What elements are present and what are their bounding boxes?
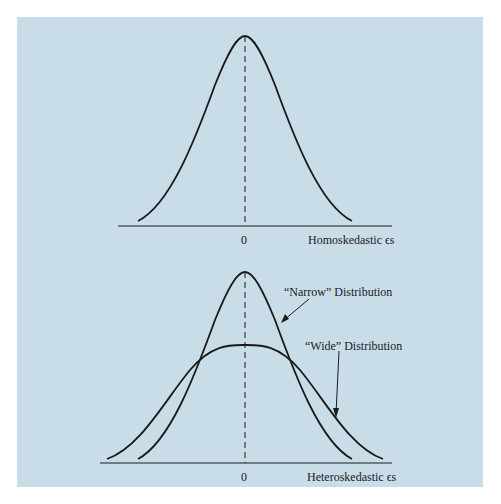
top-chart: 0 Homoskedastic ϵs — [118, 36, 395, 247]
wide-distribution-label: “Wide” Distribution — [305, 339, 402, 353]
figure-svg: 0 Homoskedastic ϵs “Narrow” Distribution… — [0, 0, 501, 504]
narrow-distribution-label: “Narrow” Distribution — [284, 285, 392, 299]
bottom-chart: “Narrow” Distribution “Wide” Distributio… — [100, 272, 402, 484]
bottom-zero-label: 0 — [241, 470, 247, 484]
bottom-axis-label: Heteroskedastic ϵs — [307, 470, 396, 484]
top-axis-label: Homoskedastic ϵs — [308, 233, 395, 247]
narrow-arrow — [284, 299, 309, 320]
narrow-arrowhead — [281, 314, 289, 323]
wide-arrow — [336, 351, 339, 414]
top-zero-label: 0 — [241, 233, 247, 247]
